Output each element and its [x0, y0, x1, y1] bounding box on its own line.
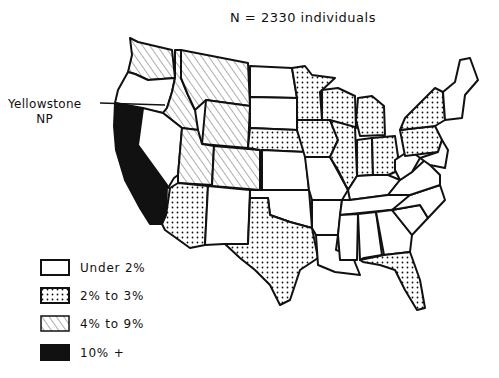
state-new-mexico: [205, 186, 250, 245]
state-north-dakota: [250, 66, 297, 98]
yellowstone-line2: NP: [8, 112, 82, 127]
state-new-york: [400, 88, 445, 130]
legend-item-under-2: Under 2%: [40, 258, 146, 277]
map-title: N = 2330 individuals: [230, 10, 376, 25]
state-wyoming: [202, 100, 250, 148]
state-new-england: [443, 58, 478, 120]
legend-item-2-to-3: 2% to 3%: [40, 286, 146, 305]
legend-label: Under 2%: [80, 261, 146, 275]
yellowstone-annotation: Yellowstone NP: [8, 97, 82, 127]
yellowstone-line1: Yellowstone: [8, 97, 82, 112]
state-michigan: [356, 96, 385, 136]
swatch-white-icon: [40, 259, 70, 276]
swatch-hatch-icon: [40, 315, 70, 332]
state-indiana: [357, 138, 373, 176]
legend-item-4-to-9: 4% to 9%: [40, 314, 146, 333]
legend-label: 2% to 3%: [80, 289, 144, 303]
legend-label: 4% to 9%: [80, 317, 144, 331]
state-arkansas: [312, 200, 342, 235]
state-south-dakota: [250, 97, 297, 130]
legend-item-10-plus: 10% +: [40, 343, 146, 362]
swatch-black-icon: [40, 344, 70, 361]
state-arizona: [162, 183, 208, 248]
state-florida: [360, 252, 425, 310]
state-mississippi: [338, 214, 358, 260]
swatch-dots-icon: [40, 287, 70, 304]
state-colorado: [212, 146, 260, 190]
legend-label: 10% +: [80, 346, 125, 360]
state-kansas: [262, 150, 309, 190]
legend: Under 2% 2% to 3% 4% to 9% 10% +: [40, 258, 146, 371]
state-pennsylvania: [400, 126, 442, 156]
